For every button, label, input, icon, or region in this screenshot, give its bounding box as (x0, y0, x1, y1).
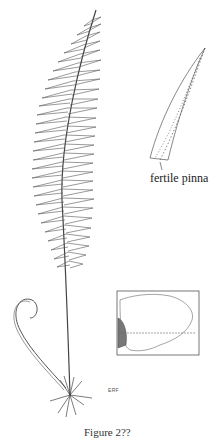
rhizome-roots (50, 376, 92, 417)
artist-monogram: ERF (108, 387, 119, 393)
fertile-pinna-label: fertile pinna (150, 171, 208, 186)
figure-caption: Figure 2?? (84, 426, 131, 438)
crozier (14, 299, 66, 390)
fertile-pinna (150, 48, 205, 170)
main-frond (32, 10, 101, 395)
range-map (117, 291, 199, 355)
